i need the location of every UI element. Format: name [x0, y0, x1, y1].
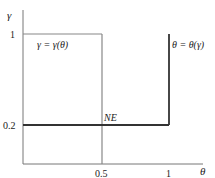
x-tick-0-5: 0.5	[95, 168, 108, 178]
y-tick-1: 1	[10, 29, 15, 40]
y-tick-0-2: 0.2	[3, 120, 16, 131]
y-axis-label: γ	[7, 9, 12, 21]
gamma-curve-label: γ = γ(θ)	[37, 39, 69, 51]
nash-equilibrium-label: NE	[103, 112, 117, 123]
best-response-diagram: γ θ 1 0.2 0.5 1 γ = γ(θ) θ = θ(γ) NE	[0, 0, 215, 178]
x-tick-1: 1	[166, 168, 171, 178]
gamma-best-response-curve	[23, 34, 102, 164]
x-axis-label: θ	[200, 165, 206, 177]
theta-curve-label: θ = θ(γ)	[172, 39, 205, 51]
axes	[23, 10, 203, 164]
